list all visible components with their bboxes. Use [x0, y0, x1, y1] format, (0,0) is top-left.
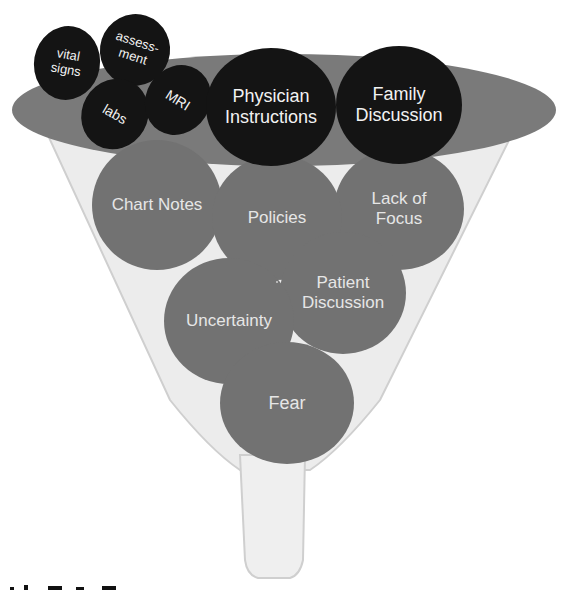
bubble-chart-notes: Chart Notes — [92, 140, 222, 270]
bubble-physician-instructions: Physician Instructions — [206, 48, 336, 166]
cropped-caption — [10, 585, 120, 590]
bubble-patient-discussion: Patient Discussion — [280, 232, 406, 354]
funnel-diagram: Chart Notes Lack of Focus Policies Patie… — [0, 0, 563, 590]
center-dot — [276, 281, 278, 283]
funnel-spout — [240, 455, 305, 578]
bubble-family-discussion: Family Discussion — [336, 46, 462, 164]
bubble-fear: Fear — [220, 342, 354, 464]
